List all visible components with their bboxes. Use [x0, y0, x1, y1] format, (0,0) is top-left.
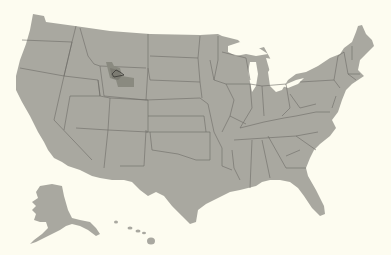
alaska-inset	[30, 184, 100, 244]
contiguous-us-landmass	[16, 14, 374, 224]
us-map: United States	[0, 0, 391, 255]
us-map-svg	[0, 0, 391, 255]
hawaii-inset	[114, 221, 155, 245]
